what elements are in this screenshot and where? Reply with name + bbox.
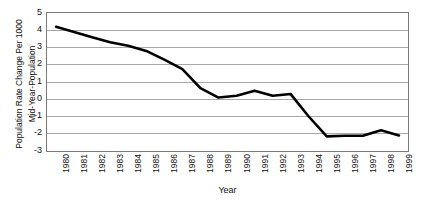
x-axis-title: Year [46,185,409,196]
x-tick-label: 1999 [403,154,415,186]
y-axis-tick-labels: 543210-1-2-3 [26,0,44,203]
x-axis-tick-labels: 1980198119821983198419851986198719881989… [46,154,409,186]
x-tick-label: 1997 [367,154,379,186]
x-tick-label: 1994 [313,154,325,186]
y-tick-label: 4 [37,25,42,34]
y-tick-label: -2 [34,128,42,137]
y-tick-label: -3 [34,146,42,155]
chart-title [60,0,360,3]
y-tick-label: 2 [37,59,42,68]
y-gridlines [47,30,408,134]
x-tick-label: 1981 [78,154,90,186]
x-tick-label: 1989 [222,154,234,186]
x-tick-label: 1992 [277,154,289,186]
x-tick-label: 1980 [60,154,72,186]
x-tick-label: 1996 [349,154,361,186]
plot-area [46,12,409,152]
y-axis-title: Population Rate Change Per 1000 Mid-Year… [0,8,26,160]
y-tick-label: -1 [34,111,42,120]
y-tick-label: 1 [37,77,42,86]
population-rate-change-line-chart: Population Rate Change Per 1000 Mid-Year… [0,0,421,203]
x-tick-label: 1993 [295,154,307,186]
x-tick-label: 1991 [259,154,271,186]
x-tick-label: 1987 [186,154,198,186]
y-tick-label: 5 [37,8,42,17]
x-tick-label: 1984 [132,154,144,186]
x-tick-label: 1986 [168,154,180,186]
x-tick-label: 1988 [204,154,216,186]
x-tick-label: 1985 [150,154,162,186]
x-tick-label: 1983 [114,154,126,186]
y-tick-label: 3 [37,42,42,51]
x-tick-label: 1995 [331,154,343,186]
plot-svg [47,13,408,151]
x-tick-label: 1982 [96,154,108,186]
x-tick-label: 1990 [241,154,253,186]
x-tick-label: 1998 [385,154,397,186]
y-tick-label: 0 [37,94,42,103]
